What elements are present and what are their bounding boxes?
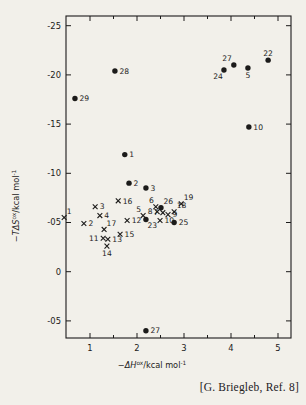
x-tick-label: 5 <box>275 343 280 353</box>
point-label-10: 10 <box>165 216 175 225</box>
x-axis-title: −ΔHox/kcal mol-1 <box>118 360 187 370</box>
point-circle-27 <box>231 62 236 67</box>
point-label-5: 5 <box>245 71 250 80</box>
point-label-15: 15 <box>125 230 135 239</box>
point-label-1: 1 <box>129 150 134 159</box>
point-label-8: 8 <box>148 207 153 216</box>
point-label-24: 24 <box>213 72 223 81</box>
point-label-19: 19 <box>184 193 194 202</box>
point-circle-29 <box>72 96 77 101</box>
point-label-7: 7 <box>154 208 159 217</box>
point-label-16: 16 <box>123 197 133 206</box>
point-circle-22 <box>265 57 270 62</box>
point-label-6: 6 <box>149 196 154 205</box>
point-label-5: 5 <box>136 205 141 214</box>
point-circle-3 <box>143 185 148 190</box>
point-cross-5 <box>141 213 146 218</box>
point-circle-2 <box>126 180 131 185</box>
point-label-3: 3 <box>100 202 105 211</box>
point-label-18: 18 <box>177 201 187 210</box>
x-tick-label: 4 <box>228 343 233 353</box>
point-label-11: 11 <box>89 234 99 243</box>
point-label-14: 14 <box>102 249 112 258</box>
point-label-12: 12 <box>132 216 142 225</box>
point-cross-13 <box>105 237 110 242</box>
point-label-28: 28 <box>119 67 129 76</box>
point-label-26: 26 <box>163 197 173 206</box>
point-label-3: 3 <box>150 184 155 193</box>
point-label-13: 13 <box>112 235 122 244</box>
point-label-17: 17 <box>107 219 117 228</box>
y-tick-label: 0 <box>56 267 61 277</box>
scatter-plot: 12345-25-20-15-10-050-05−ΔHox/kcal mol-1… <box>0 0 306 405</box>
x-tick-label: 3 <box>181 343 186 353</box>
point-label-25: 25 <box>179 218 189 227</box>
y-tick-label: -05 <box>47 316 61 326</box>
point-cross-3 <box>93 204 98 209</box>
point-circle-27 <box>143 328 148 333</box>
point-cross-4 <box>97 213 102 218</box>
y-tick-label: -25 <box>47 21 61 31</box>
scanned-figure-page: 12345-25-20-15-10-050-05−ΔHox/kcal mol-1… <box>0 0 306 405</box>
x-tick-label: 2 <box>134 343 139 353</box>
y-tick-label: -05 <box>47 217 61 227</box>
point-cross-2 <box>81 221 86 226</box>
point-label-22: 22 <box>263 49 273 58</box>
point-cross-10 <box>158 218 163 223</box>
y-tick-label: -10 <box>47 168 61 178</box>
point-label-29: 29 <box>79 94 89 103</box>
y-tick-label: -15 <box>47 119 61 129</box>
point-cross-7 <box>160 210 165 215</box>
point-label-27: 27 <box>150 326 160 335</box>
y-axis-title: −TΔSox/kcal mol-1 <box>11 169 21 242</box>
point-cross-16 <box>116 198 121 203</box>
point-label-2: 2 <box>134 179 139 188</box>
point-circle-1 <box>122 152 127 157</box>
plot-frame <box>66 16 291 338</box>
point-label-10: 10 <box>253 123 263 132</box>
point-label-23: 23 <box>147 221 157 230</box>
x-tick-label: 1 <box>87 343 92 353</box>
point-label-27: 27 <box>222 54 232 63</box>
reference-caption: [G. Briegleb, Ref. 8] <box>200 381 299 393</box>
y-tick-label: -20 <box>47 70 61 80</box>
point-cross-12 <box>125 218 130 223</box>
point-label-2: 2 <box>88 219 93 228</box>
point-label-1: 1 <box>67 207 72 216</box>
point-cross-11 <box>101 236 106 241</box>
point-circle-10 <box>246 124 251 129</box>
point-circle-28 <box>112 68 117 73</box>
